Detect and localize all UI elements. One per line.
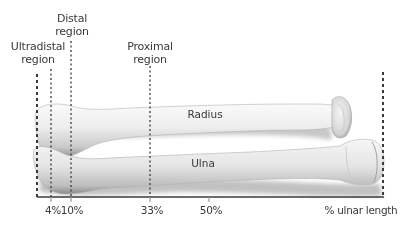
tick-label-10: 10% — [61, 204, 83, 216]
tick-label-4: 4% — [45, 204, 61, 216]
proximal-region-label: Proximal region — [127, 40, 173, 66]
axis-label: % ulnar length — [325, 204, 398, 216]
length-axis — [37, 197, 384, 202]
forearm-diagram: Ultradistal region Distal region Proxima… — [0, 0, 412, 229]
ultradistal-region-label: Ultradistal region — [11, 40, 65, 66]
tick-label-33: 33% — [141, 204, 163, 216]
radius-label: Radius — [187, 108, 222, 120]
ulna-label: Ulna — [191, 157, 215, 169]
distal-region-label: Distal region — [55, 12, 89, 38]
tick-label-50: 50% — [200, 204, 222, 216]
